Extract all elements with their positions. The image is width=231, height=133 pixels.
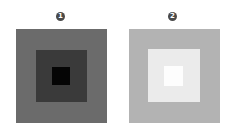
panel-2-inner-square [164,66,183,86]
panel-2-number-badge: 2 [168,12,177,21]
panel-1-number-badge: 1 [56,12,65,21]
panel-1-inner-square [52,67,70,85]
